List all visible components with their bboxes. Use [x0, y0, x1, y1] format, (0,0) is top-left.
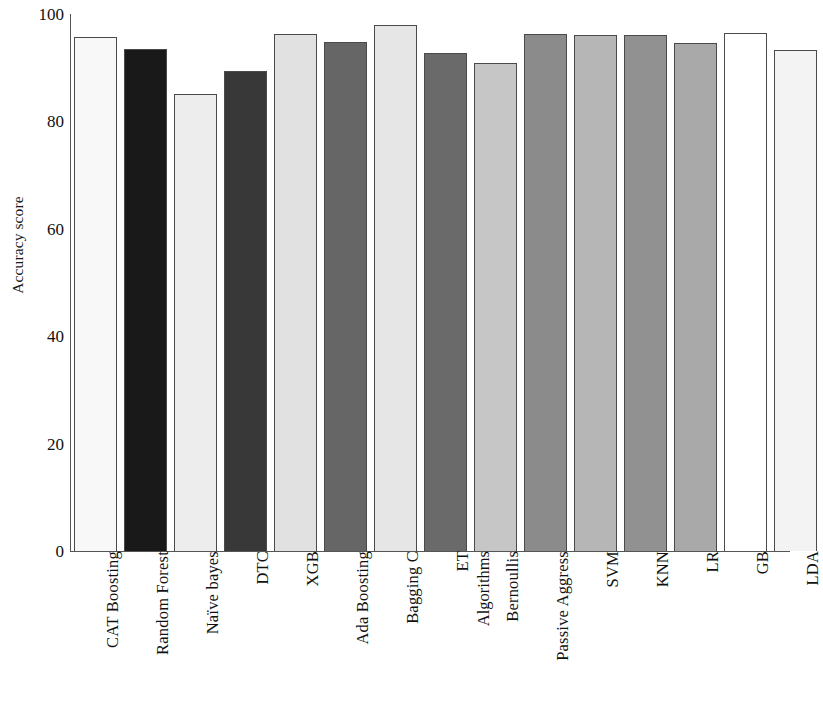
bar — [674, 43, 717, 551]
x-tick-label: Passive Aggress — [553, 551, 573, 661]
x-tick-label: GB — [753, 551, 773, 574]
x-tick-label: KNN — [653, 551, 673, 587]
x-tick-label: Bernoullis — [503, 551, 523, 622]
x-tick-label: DTC — [253, 551, 273, 585]
bar — [124, 49, 167, 551]
y-tick-label: 40 — [18, 328, 64, 345]
x-tick-label: XGB — [303, 551, 323, 586]
x-axis-title: Algorithms — [474, 551, 494, 626]
bar — [724, 33, 767, 551]
x-tick-label: CAT Boosting — [103, 551, 123, 648]
x-tick-label: Random Forest — [153, 551, 173, 655]
y-axis-tick-labels: 020406080100 — [16, 0, 64, 702]
bar — [274, 34, 317, 551]
plot-area — [70, 14, 790, 551]
y-tick-label: 0 — [18, 543, 64, 560]
x-axis-tick-labels: CAT BoostingRandom ForestNaïve bayesDTCX… — [70, 551, 823, 702]
bar — [374, 25, 417, 551]
y-tick-label: 100 — [18, 6, 64, 23]
x-tick-label: ET — [453, 551, 473, 572]
bar — [324, 42, 367, 551]
bar — [574, 35, 617, 551]
y-axis-line — [70, 14, 71, 551]
x-tick-label: LDA — [803, 551, 823, 586]
x-tick-label: Ada Boosting — [353, 551, 373, 645]
x-tick-label: Naïve bayes — [203, 551, 223, 634]
x-tick-label: SVM — [603, 551, 623, 587]
bar — [174, 94, 217, 551]
bar — [624, 35, 667, 551]
y-tick-label: 80 — [18, 113, 64, 130]
y-tick-label: 20 — [18, 435, 64, 452]
bar — [74, 37, 117, 551]
bar — [474, 63, 517, 551]
bar — [524, 34, 567, 551]
bar — [774, 50, 817, 551]
x-tick-label: Bagging C — [403, 551, 423, 624]
bar — [224, 71, 267, 551]
bar — [424, 53, 467, 551]
x-tick-label: LR — [703, 551, 723, 572]
y-tick-label: 60 — [18, 220, 64, 237]
